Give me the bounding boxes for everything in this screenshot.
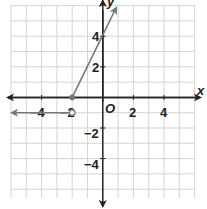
y-axis-label: y xyxy=(106,0,115,9)
x-tick-label: 4 xyxy=(160,105,168,120)
series-linear xyxy=(69,8,116,100)
closed-point xyxy=(69,95,75,101)
y-tick-label: −2 xyxy=(84,126,99,141)
x-tick-label: 2 xyxy=(129,105,136,120)
open-point xyxy=(69,110,75,116)
x-axis-label: x xyxy=(196,83,205,98)
y-tick-label: 2 xyxy=(92,60,99,75)
y-tick-label: −4 xyxy=(84,157,100,172)
origin-label: O xyxy=(105,101,115,116)
coordinate-plane: x y O −4 −2 2 4 4 2 −2 −4 xyxy=(0,0,207,209)
